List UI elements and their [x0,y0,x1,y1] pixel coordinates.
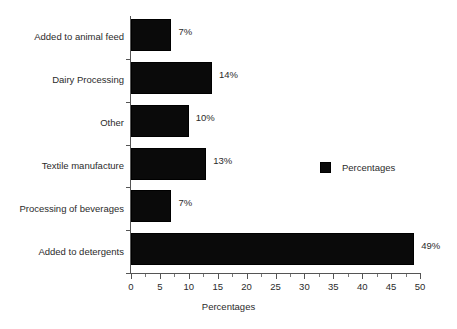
x-tick-minor [232,274,233,277]
x-tick-major [333,274,334,279]
bar [131,233,414,265]
bar-band: 7% [131,16,420,59]
legend-swatch-percentages [320,162,331,173]
x-tick-major [160,274,161,279]
bar-value-label: 7% [178,26,192,37]
x-tick-major [276,274,277,279]
bar-value-label: 10% [196,112,215,123]
category-label: Added to detergents [0,246,124,257]
x-tick-minor [319,274,320,277]
x-tick-label: 15 [206,281,230,292]
y-tick [126,145,130,146]
chart-legend: Percentages [320,162,395,173]
x-tick-label: 45 [379,281,403,292]
y-tick [126,102,130,103]
category-label: Textile manufacture [0,160,124,171]
x-tick-minor [348,274,349,277]
bar-value-label: 14% [219,69,238,80]
bar-value-label: 7% [178,197,192,208]
x-tick-minor [203,274,204,277]
y-tick [126,187,130,188]
x-tick-label: 30 [292,281,316,292]
x-tick-major [420,274,421,279]
x-tick-label: 35 [321,281,345,292]
plot-area: 7%14%10%13%7%49% [131,16,420,273]
y-tick [126,273,130,274]
x-tick-major [391,274,392,279]
category-label: Added to animal feed [0,31,124,42]
bar [131,148,206,180]
x-tick-minor [174,274,175,277]
x-tick-major [362,274,363,279]
x-tick-minor [290,274,291,277]
category-label: Processing of beverages [0,203,124,214]
x-tick-label: 20 [235,281,259,292]
x-tick-label: 25 [264,281,288,292]
x-tick-label: 40 [350,281,374,292]
x-tick-minor [261,274,262,277]
bar [131,19,171,51]
bar-value-label: 13% [213,155,232,166]
category-label: Other [0,117,124,128]
bar [131,190,171,222]
bar [131,105,189,137]
x-tick-label: 5 [148,281,172,292]
y-tick [126,230,130,231]
bar-value-label: 49% [421,240,440,251]
bar-band: 7% [131,187,420,230]
x-tick-minor [406,274,407,277]
x-tick-major [218,274,219,279]
x-tick-major [304,274,305,279]
bar-band: 49% [131,230,420,273]
x-tick-minor [145,274,146,277]
x-axis-title: Percentages [0,301,457,312]
legend-label-percentages: Percentages [342,162,395,173]
x-tick-major [131,274,132,279]
x-tick-minor [377,274,378,277]
bar [131,62,212,94]
bar-chart: Added to animal feedDairy ProcessingOthe… [0,0,457,329]
x-tick-major [247,274,248,279]
x-tick-major [189,274,190,279]
category-label: Dairy Processing [0,74,124,85]
x-tick-label: 0 [119,281,143,292]
x-tick-label: 50 [408,281,432,292]
y-tick [126,59,130,60]
x-tick-label: 10 [177,281,201,292]
bar-band: 14% [131,59,420,102]
bar-band: 10% [131,102,420,145]
